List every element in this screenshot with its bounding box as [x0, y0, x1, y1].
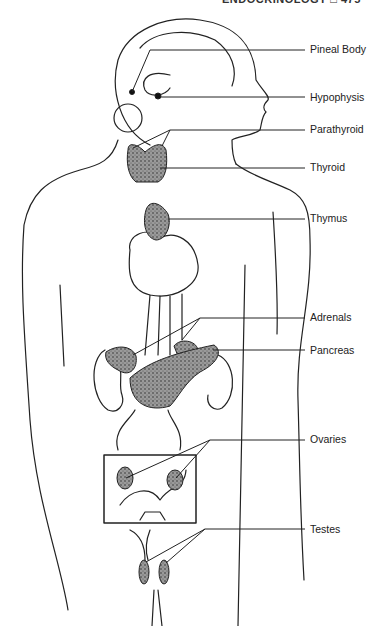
label-pineal-body: Pineal Body	[310, 43, 366, 55]
label-ovaries: Ovaries	[310, 433, 346, 445]
ovaries-inset	[104, 455, 196, 523]
thymus	[144, 203, 169, 240]
body-right-outline	[236, 164, 310, 580]
body-left-outline	[22, 140, 118, 610]
pancreas	[130, 345, 218, 408]
heart	[129, 232, 198, 296]
testis-right	[159, 560, 169, 584]
pituitary	[155, 93, 161, 99]
label-parathyroid: Parathyroid	[310, 123, 364, 135]
label-testes: Testes	[310, 523, 340, 535]
testis-left	[139, 560, 149, 584]
label-thyroid: Thyroid	[310, 161, 345, 173]
head-outline	[115, 19, 268, 164]
label-hypophysis: Hypophysis	[310, 91, 364, 103]
adrenal-left	[106, 347, 137, 373]
ovary-left	[117, 467, 133, 489]
thyroid	[127, 145, 166, 182]
label-thymus: Thymus	[310, 212, 347, 224]
label-pancreas: Pancreas	[310, 344, 354, 356]
label-adrenals: Adrenals	[310, 311, 351, 323]
